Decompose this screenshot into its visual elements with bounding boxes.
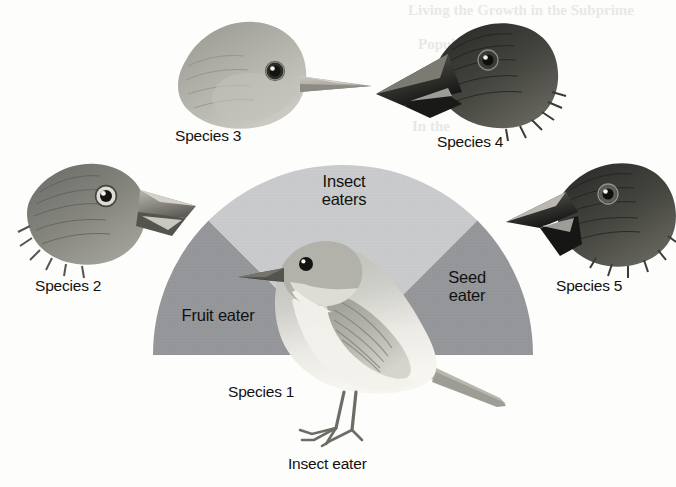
species-4-illustration: [376, 23, 566, 141]
wedge-label-fruit-eater: Fruit eater: [158, 306, 278, 324]
wedge-label-seed-eater: Seed eater: [424, 268, 510, 305]
species-2-illustration: [18, 164, 196, 278]
species-1-diet-caption: Insect eater: [288, 455, 367, 473]
species-5-illustration: [506, 163, 676, 278]
wedge-label-insect-eaters: Insect eaters: [288, 172, 400, 209]
species-5-caption: Species 5: [556, 277, 622, 295]
diet-fan-diagram: [0, 0, 676, 487]
species-1-caption: Species 1: [228, 383, 294, 401]
species-3-caption: Species 3: [175, 127, 241, 145]
species-4-caption: Species 4: [437, 133, 503, 151]
species-2-caption: Species 2: [35, 277, 101, 295]
species-3-illustration: [178, 22, 372, 129]
figure-canvas: Living the Growth in the Subprime Popula…: [0, 0, 676, 487]
